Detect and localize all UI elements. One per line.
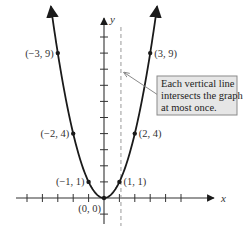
point-label: (−2, 4): [41, 128, 70, 140]
data-point: [102, 196, 106, 200]
data-point: [71, 131, 75, 135]
annotation-text-line: at most once.: [161, 102, 217, 113]
data-point: [148, 51, 152, 55]
point-label: (−1, 1): [56, 176, 85, 188]
data-point: [86, 180, 90, 184]
parabola-chart: (−3, 9)(3, 9)(−2, 4)(2, 4)(−1, 1)(1, 1)(…: [0, 0, 249, 241]
y-axis-label: y: [109, 13, 115, 25]
annotation-group: Each vertical lineintersects the graphat…: [124, 72, 243, 115]
data-point: [117, 180, 121, 184]
point-label: (2, 4): [139, 128, 162, 140]
annotation-arrow: [124, 72, 158, 95]
x-axis-label: x: [220, 192, 226, 204]
point-label: (3, 9): [154, 48, 177, 60]
data-point: [133, 131, 137, 135]
point-label: (0, 0): [78, 203, 101, 215]
points-group: (−3, 9)(3, 9)(−2, 4)(2, 4)(−1, 1)(1, 1)(…: [25, 48, 177, 215]
point-label: (−3, 9): [25, 48, 54, 60]
point-label: (1, 1): [123, 176, 146, 188]
annotation-text-line: intersects the graph: [161, 90, 243, 101]
annotation-text-line: Each vertical line: [161, 78, 235, 89]
data-point: [56, 51, 60, 55]
